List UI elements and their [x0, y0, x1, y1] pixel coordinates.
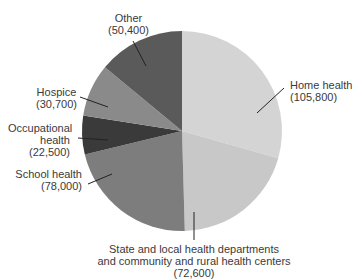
label-state-value: (72,600) [94, 267, 294, 279]
label-other: Other (50,400) [108, 12, 149, 36]
label-occupational: Occupational health (22,500) [8, 122, 70, 158]
label-home-value: (105,800) [290, 91, 352, 103]
label-home-name: Home health [290, 79, 352, 91]
label-school-value: (78,000) [14, 180, 82, 192]
label-other-value: (50,400) [108, 24, 149, 36]
label-state: State and local health departments and c… [94, 243, 294, 279]
label-hospice-name: Hospice [36, 86, 77, 98]
label-hospice-value: (30,700) [36, 98, 77, 110]
label-hospice: Hospice (30,700) [36, 86, 77, 110]
pie-slices [82, 31, 282, 231]
label-state-name2: and community and rural health centers [94, 255, 294, 267]
label-school-name: School health [14, 168, 82, 180]
label-school: School health (78,000) [14, 168, 82, 192]
label-state-name1: State and local health departments [94, 243, 294, 255]
label-occupational-name1: Occupational [8, 122, 70, 134]
label-other-name: Other [108, 12, 149, 24]
label-occupational-name2: health [8, 134, 70, 146]
label-occupational-value: (22,500) [8, 146, 70, 158]
label-home: Home health (105,800) [290, 79, 352, 103]
